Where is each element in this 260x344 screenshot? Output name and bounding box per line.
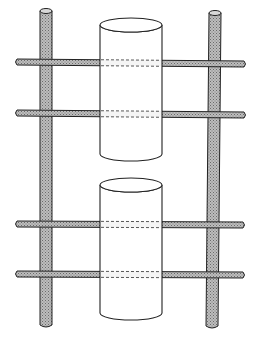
right-post <box>206 11 221 329</box>
scaffold-cylinder-diagram <box>0 0 260 344</box>
upper-cylinder <box>100 18 162 161</box>
upper-cylinder-top-ellipse <box>100 18 162 32</box>
right-post-top-cap <box>209 11 221 16</box>
left-post-top-cap <box>40 9 52 14</box>
crossbar-4-hidden-segment <box>101 271 161 277</box>
lower-cylinder-top-ellipse <box>100 178 162 192</box>
crossbar-2-hidden-segment <box>101 111 161 118</box>
crossbar-1-hidden-segment <box>101 60 161 67</box>
lower-cylinder <box>100 178 162 320</box>
left-post <box>40 9 52 328</box>
diagram-canvas <box>0 0 260 344</box>
crossbar-3-hidden-segment <box>101 221 161 227</box>
